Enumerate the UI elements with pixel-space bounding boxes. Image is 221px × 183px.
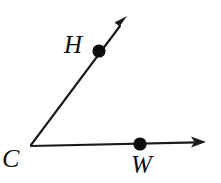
ray-c-w-line <box>31 142 197 146</box>
point-label-w: W <box>131 152 152 177</box>
angle-diagram-figure: H C W <box>0 0 221 183</box>
point-dot-w <box>133 137 146 150</box>
point-label-h: H <box>64 32 82 57</box>
vertex-label-c: C <box>2 146 19 172</box>
angle-diagram-canvas <box>0 0 221 183</box>
point-dot-h <box>92 44 105 57</box>
ray-c-w <box>31 137 206 148</box>
ray-c-h-arrowhead-icon <box>115 16 128 31</box>
